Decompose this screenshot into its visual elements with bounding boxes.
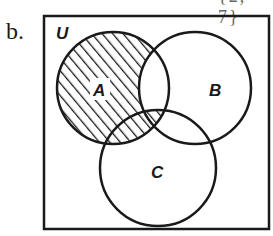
set-label-c: C	[151, 163, 164, 182]
shaded-region	[0, 0, 273, 236]
set-label-b: B	[209, 81, 221, 100]
venn-diagram: U A B C	[0, 0, 273, 236]
universe-label: U	[56, 24, 69, 43]
set-label-a: A	[92, 81, 105, 100]
